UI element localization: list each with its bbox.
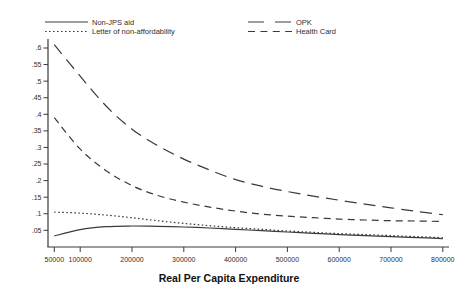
x-tick-label: 200000 (120, 256, 143, 263)
x-tick-label: 300000 (172, 256, 195, 263)
series-path-letter-of-non-affordability (54, 212, 443, 238)
plot-series (54, 45, 443, 239)
chart-figure: Non-JPS aid Letter of non-affordability … (0, 0, 476, 298)
series-path-non-jps-aid (54, 226, 443, 239)
legend: Non-JPS aid Letter of non-affordability … (45, 18, 336, 36)
y-tick-label: .05 (32, 227, 42, 234)
y-tick-label: .45 (32, 94, 42, 101)
x-tick-label: 500000 (276, 256, 299, 263)
y-tick-label: .1 (36, 210, 42, 217)
x-tick-label: 600000 (328, 256, 351, 263)
legend-label-opk: OPK (296, 18, 312, 27)
series-path-opk (54, 45, 443, 215)
y-tick-label: .15 (32, 194, 42, 201)
y-tick-label: .55 (32, 61, 42, 68)
x-axis-title: Real Per Capita Expenditure (159, 272, 300, 284)
x-tick-label: 50000 (45, 256, 65, 263)
chart-canvas: Non-JPS aid Letter of non-affordability … (0, 0, 476, 298)
y-tick-label: .4 (36, 111, 42, 118)
y-tick-label: .3 (36, 144, 42, 151)
y-tick-label: .2 (36, 177, 42, 184)
legend-label-health-card: Health Card (296, 27, 336, 36)
y-tick-label: .5 (36, 78, 42, 85)
y-tick-label: .25 (32, 160, 42, 167)
x-tick-label: 400000 (224, 256, 247, 263)
y-axis-ticks: .05.1.15.2.25.3.35.4.45.5.55.6 (32, 44, 48, 233)
x-tick-label: 100000 (69, 256, 92, 263)
x-axis-ticks: 5000010000020000030000040000050000060000… (45, 247, 455, 263)
legend-label-letter-of-non-affordability: Letter of non-affordability (92, 27, 175, 36)
y-tick-label: .6 (36, 44, 42, 51)
x-tick-label: 800000 (431, 256, 454, 263)
y-tick-label: .35 (32, 127, 42, 134)
x-tick-label: 700000 (379, 256, 402, 263)
legend-label-non-jps-aid: Non-JPS aid (92, 18, 134, 27)
series-path-health-card (54, 118, 443, 222)
